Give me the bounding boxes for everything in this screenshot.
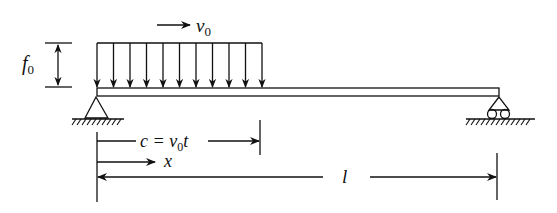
length-label: l <box>342 166 347 187</box>
roller-support-right <box>466 97 535 125</box>
velocity-label: v0 <box>196 15 211 39</box>
coordinate-label: x <box>163 151 172 171</box>
load-height-label: f0 <box>22 52 34 77</box>
load-height-dimension <box>45 43 72 87</box>
pin-support-left <box>72 97 124 125</box>
distributed-load <box>97 43 262 87</box>
beam <box>97 88 499 96</box>
beam-diagram: v0 f0 <box>0 0 557 213</box>
